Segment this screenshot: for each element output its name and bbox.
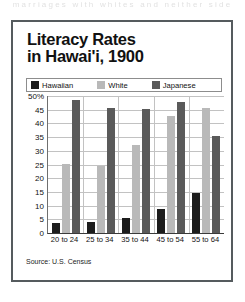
y-tick-label: 0 [40,229,44,238]
legend-label: Hawaiian [42,81,73,90]
x-tick-label: 45 to 54 [156,235,183,244]
legend-label: Japanese [163,81,196,90]
bar-group [154,96,189,233]
bar-group [189,96,224,233]
y-tick-label: 35 [35,133,44,142]
figure-frame: Literacy Rates in Hawai'i, 1900 Hawaiian… [11,20,233,282]
bar-white [97,166,105,233]
bar-japanese [177,102,185,233]
y-tick-label: 20 [35,174,44,183]
figure-inner: Literacy Rates in Hawai'i, 1900 Hawaiian… [17,26,227,276]
source-note: Source: U.S. Census [26,258,91,265]
legend-item-white: White [97,79,127,91]
bar-japanese [72,100,80,233]
chart-title-line-2: in Hawai'i, 1900 [27,48,217,65]
bar-hawaiian [157,209,165,233]
scanned-page-clipped-text: marriages with whites and neither side [0,0,245,10]
bar-japanese [212,136,220,233]
legend-label: White [108,81,127,90]
bar-white [62,164,70,233]
bars-layer [48,96,224,233]
bar-japanese [107,108,115,233]
bar-group [48,96,83,233]
bar-group [118,96,153,233]
plot-wrapper: 50%454035302520151050 20 to 2425 to 3435… [17,96,231,256]
legend-swatch-icon [31,81,39,89]
y-tick-label: 50% [28,92,44,101]
legend-swatch-icon [97,81,105,89]
bar-white [167,116,175,233]
y-tick-label: 25 [35,160,44,169]
bar-group [83,96,118,233]
x-tick-label: 55 to 64 [192,235,219,244]
plot-area [47,96,224,234]
bar-white [202,108,210,233]
y-tick-label: 15 [35,187,44,196]
y-tick-label: 30 [35,146,44,155]
chart-legend: HawaiianWhiteJapanese [26,78,222,92]
bar-hawaiian [87,222,95,233]
bar-hawaiian [192,193,200,233]
y-axis: 50%454035302520151050 [17,96,46,233]
bar-japanese [142,109,150,233]
y-tick-label: 10 [35,201,44,210]
bar-white [132,145,140,234]
y-tick-label: 5 [40,215,44,224]
x-tick-label: 25 to 34 [86,235,113,244]
bar-hawaiian [52,223,60,233]
legend-swatch-icon [152,81,160,89]
y-tick-label: 40 [35,119,44,128]
legend-item-hawaiian: Hawaiian [31,79,73,91]
bar-hawaiian [122,218,130,233]
x-axis: 20 to 2425 to 3435 to 4445 to 5455 to 64 [47,235,223,247]
x-tick-label: 35 to 44 [121,235,148,244]
chart-title-line-1: Literacy Rates [27,31,217,48]
legend-item-japanese: Japanese [152,79,196,91]
chart-title: Literacy Rates in Hawai'i, 1900 [27,31,217,65]
y-tick-label: 45 [35,105,44,114]
x-tick-label: 20 to 24 [51,235,78,244]
